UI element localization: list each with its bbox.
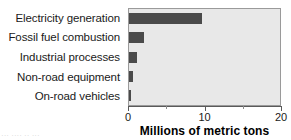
bar-chart: Electricity generation Fossil fuel combu… <box>0 0 291 140</box>
x-axis-title: Millions of metric tons <box>128 124 281 138</box>
bar-non-road-equipment <box>129 71 133 82</box>
bars-layer <box>129 9 280 105</box>
category-label-on-road-vehicles: On-road vehicles <box>35 90 124 102</box>
bar-row <box>129 86 280 105</box>
bar-row <box>129 67 280 86</box>
bar-industrial-processes <box>129 52 137 63</box>
bar-on-road-vehicles <box>129 90 131 101</box>
x-tick-minor <box>166 106 167 109</box>
category-label-industrial-processes: Industrial processes <box>20 51 124 63</box>
x-tick-minor <box>243 106 244 109</box>
bar-row <box>129 9 280 28</box>
bar-row <box>129 28 280 47</box>
category-label-electricity-generation: Electricity generation <box>15 12 124 24</box>
category-label-fossil-fuel-combustion: Fossil fuel combustion <box>8 31 124 43</box>
plot-area <box>128 8 281 106</box>
bar-row <box>129 47 280 66</box>
x-tick-label: 0 <box>125 111 131 123</box>
bar-fossil-fuel-combustion <box>129 32 144 43</box>
category-label-non-road-equipment: Non-road equipment <box>17 71 124 83</box>
x-tick-label: 20 <box>275 111 287 123</box>
x-tick-label: 10 <box>198 111 210 123</box>
category-axis: Electricity generation Fossil fuel combu… <box>0 8 124 106</box>
caption-artifact: ··· ···· ·· ··· <box>1 132 81 140</box>
bar-electricity-generation <box>129 13 202 24</box>
